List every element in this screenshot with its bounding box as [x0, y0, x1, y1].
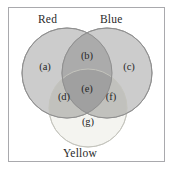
region-label-g: (g)	[82, 116, 94, 127]
region-label-e: (e)	[81, 83, 93, 94]
region-label-d: (d)	[58, 91, 70, 102]
region-label-f: (f)	[106, 91, 117, 102]
set-label-blue: Blue	[100, 13, 123, 25]
set-label-yellow: Yellow	[63, 147, 97, 159]
venn-diagram-figure: Red Blue Yellow (a)(b)(c)(d)(e)(f)(g)	[0, 0, 175, 172]
region-label-b: (b)	[81, 50, 93, 61]
region-label-c: (c)	[123, 61, 135, 72]
set-label-red: Red	[38, 13, 57, 25]
region-label-a: (a)	[39, 61, 51, 72]
